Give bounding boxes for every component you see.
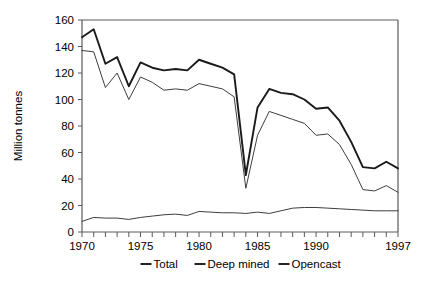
x-tick-label: 1985 [245, 240, 271, 252]
y-axis-tick-labels: 020406080100120140160 [55, 14, 74, 238]
x-tick-label: 1990 [303, 240, 329, 252]
y-tick-label: 160 [55, 14, 74, 26]
y-tick-label: 0 [68, 226, 74, 238]
x-tick-label: 1970 [69, 240, 95, 252]
y-tick-label: 140 [55, 41, 74, 53]
y-axis-title: Million tonnes [12, 91, 24, 162]
y-axis-title-label: Million tonnes [12, 91, 24, 162]
y-tick-label: 20 [61, 200, 74, 212]
chart-legend: TotalDeep minedOpencast [141, 258, 342, 270]
legend-label-total: Total [154, 258, 178, 270]
y-tick-label: 100 [55, 94, 74, 106]
x-axis-ticks [82, 232, 398, 237]
legend-label-opencast: Opencast [292, 258, 342, 270]
x-tick-label: 1975 [128, 240, 154, 252]
legend-label-deep-mined: Deep mined [208, 258, 270, 270]
y-axis: 020406080100120140160 [55, 14, 82, 238]
y-tick-label: 80 [61, 120, 74, 132]
chart-page: 020406080100120140160 197019751980198519… [0, 0, 432, 285]
line-chart: 020406080100120140160 197019751980198519… [0, 0, 432, 285]
y-tick-label: 40 [61, 173, 74, 185]
x-tick-label: 1980 [186, 240, 212, 252]
x-axis-tick-labels: 197019751980198519901997 [69, 240, 411, 252]
x-tick-label: 1997 [385, 240, 411, 252]
x-axis: 197019751980198519901997 [69, 232, 411, 252]
y-tick-label: 120 [55, 67, 74, 79]
y-tick-label: 60 [61, 147, 74, 159]
